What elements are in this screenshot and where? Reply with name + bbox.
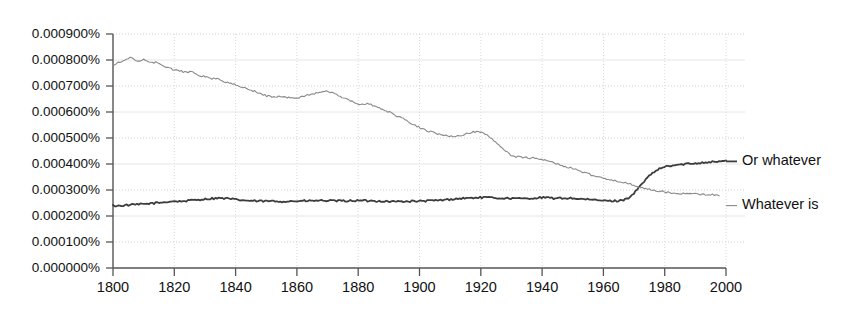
y-tick-label: 0.000400% (32, 156, 100, 171)
y-tick-label: 0.000200% (32, 208, 100, 223)
x-tick-label: 1940 (526, 279, 558, 295)
x-tick-label: 1920 (465, 279, 497, 295)
x-tick-label: 1860 (281, 279, 313, 295)
y-tick-label: 0.000000% (32, 260, 100, 275)
x-tick-label: 2000 (710, 279, 742, 295)
x-tick-label: 1840 (219, 279, 251, 295)
ngram-chart-figure: 0.000000%0.000100%0.000200%0.000300%0.00… (0, 0, 850, 316)
series-label: Or whatever (742, 152, 821, 168)
y-tick-label: 0.000900% (32, 26, 100, 41)
x-tick-label: 1820 (158, 279, 190, 295)
y-tick-label: 0.000600% (32, 104, 100, 119)
x-tick-label: 1960 (587, 279, 619, 295)
series-label: Whatever is (742, 196, 819, 212)
x-tick-label: 1800 (97, 279, 129, 295)
y-tick-label: 0.000100% (32, 234, 100, 249)
x-tick-label: 1900 (403, 279, 435, 295)
y-tick-label: 0.000800% (32, 52, 100, 67)
x-tick-label: 1880 (342, 279, 374, 295)
y-tick-label: 0.000500% (32, 130, 100, 145)
y-tick-label: 0.000300% (32, 182, 100, 197)
y-tick-label: 0.000700% (32, 78, 100, 93)
chart-canvas: 0.000000%0.000100%0.000200%0.000300%0.00… (0, 0, 850, 316)
x-tick-label: 1980 (649, 279, 681, 295)
